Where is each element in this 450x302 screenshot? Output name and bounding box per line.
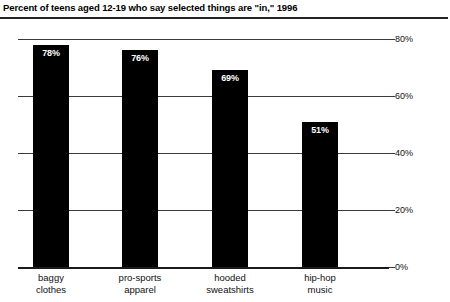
- gridline-60: [18, 96, 389, 97]
- y-tick-label-80: 80%: [395, 34, 413, 44]
- x-label-line-2: music: [265, 284, 375, 296]
- title-divider: [0, 17, 448, 19]
- y-tick-label-60: 60%: [395, 91, 413, 101]
- chart-figure: Percent of teens aged 12-19 who say sele…: [0, 0, 450, 302]
- bar[interactable]: 51%: [302, 122, 338, 267]
- y-tick-label-20: 20%: [395, 205, 413, 215]
- gridline-80: [18, 39, 389, 40]
- bar-value-label: 51%: [302, 125, 338, 135]
- plot-area: 78%76%69%51%: [18, 39, 389, 267]
- bar[interactable]: 78%: [33, 45, 69, 267]
- chart-title: Percent of teens aged 12-19 who say sele…: [3, 2, 443, 14]
- bar[interactable]: 69%: [212, 70, 248, 267]
- y-tick-label-0: 0%: [395, 262, 408, 272]
- x-axis-category-label: hip-hopmusic: [265, 272, 375, 296]
- bar-value-label: 69%: [212, 73, 248, 83]
- bar[interactable]: 76%: [122, 50, 158, 267]
- x-label-line-1: hip-hop: [265, 272, 375, 284]
- bar-value-label: 76%: [122, 53, 158, 63]
- bar-value-label: 78%: [33, 48, 69, 58]
- gridline-0: [18, 267, 389, 269]
- y-tick-label-40: 40%: [395, 148, 413, 158]
